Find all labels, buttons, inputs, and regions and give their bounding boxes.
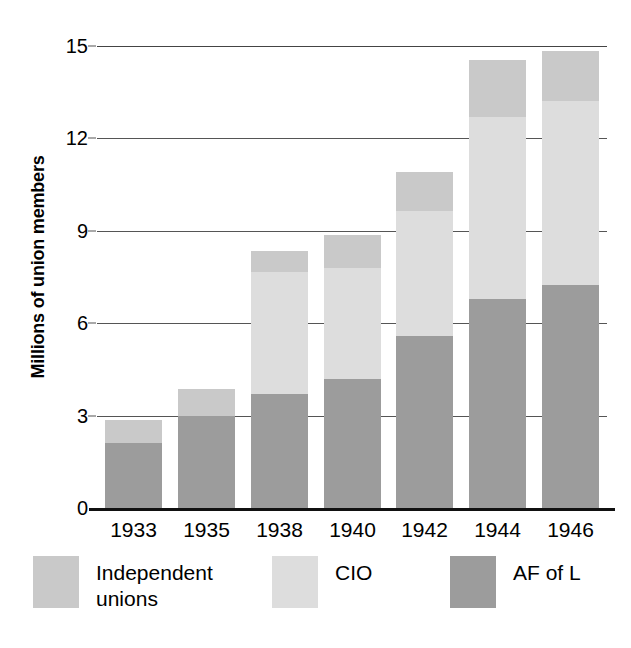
- bar-segment-cio-1938[interactable]: [251, 272, 308, 394]
- y-tick-label-12: 12: [66, 128, 88, 148]
- x-tick-label-1944: 1944: [474, 519, 521, 540]
- union-membership-stacked-bar-chart: Millions of union members 03691215 19331…: [0, 0, 631, 648]
- legend-label-0: Independent unions: [96, 556, 213, 612]
- legend-item-1[interactable]: CIO: [272, 556, 372, 608]
- y-tick-mark-9: [88, 230, 96, 231]
- legend-item-0[interactable]: Independent unions: [33, 556, 213, 612]
- legend-swatch-2: [450, 556, 496, 608]
- x-tick-label-1938: 1938: [256, 519, 303, 540]
- legend-swatch-0: [33, 556, 79, 608]
- bar-group-1933[interactable]: 1933: [105, 46, 162, 508]
- bar-segment-independent-1935[interactable]: [178, 389, 235, 415]
- bar-segment-independent-1946[interactable]: [542, 51, 599, 102]
- bar-segment-afl-1933[interactable]: [105, 443, 162, 508]
- y-tick-mark-12: [88, 138, 96, 139]
- bar-segment-independent-1940[interactable]: [324, 235, 381, 267]
- y-tick-label-9: 9: [77, 221, 88, 241]
- legend-label-1: CIO: [335, 556, 372, 586]
- bar-group-1935[interactable]: 1935: [178, 46, 235, 508]
- bar-segment-afl-1938[interactable]: [251, 394, 308, 508]
- bar-segment-afl-1946[interactable]: [542, 285, 599, 508]
- bar-group-1944[interactable]: 1944: [469, 46, 526, 508]
- bar-segment-cio-1946[interactable]: [542, 101, 599, 284]
- bar-segment-afl-1940[interactable]: [324, 379, 381, 508]
- y-tick-mark-15: [88, 46, 96, 47]
- bar-segment-cio-1944[interactable]: [469, 117, 526, 299]
- legend-item-2[interactable]: AF of L: [450, 556, 581, 608]
- bar-segment-afl-1942[interactable]: [396, 336, 453, 508]
- y-axis-title: Millions of union members: [28, 179, 49, 379]
- y-tick-mark-6: [88, 323, 96, 324]
- x-tick-label-1933: 1933: [110, 519, 157, 540]
- bar-segment-independent-1938[interactable]: [251, 251, 308, 273]
- bar-segment-independent-1944[interactable]: [469, 60, 526, 117]
- bar-segment-cio-1940[interactable]: [324, 268, 381, 379]
- bar-group-1946[interactable]: 1946: [542, 46, 599, 508]
- y-tick-label-15: 15: [66, 36, 88, 56]
- x-tick-label-1942: 1942: [401, 519, 448, 540]
- y-tick-label-3: 3: [77, 406, 88, 426]
- legend-label-2: AF of L: [513, 556, 581, 586]
- bar-group-1938[interactable]: 1938: [251, 46, 308, 508]
- legend-swatch-1: [272, 556, 318, 608]
- y-tick-label-6: 6: [77, 313, 88, 333]
- bar-group-1940[interactable]: 1940: [324, 46, 381, 508]
- x-tick-label-1935: 1935: [183, 519, 230, 540]
- x-tick-label-1940: 1940: [329, 519, 376, 540]
- y-tick-mark-3: [88, 415, 96, 416]
- bar-segment-afl-1935[interactable]: [178, 416, 235, 508]
- bar-segment-cio-1942[interactable]: [396, 211, 453, 336]
- bar-segment-independent-1942[interactable]: [396, 172, 453, 211]
- y-tick-label-0: 0: [77, 498, 88, 518]
- x-tick-label-1946: 1946: [547, 519, 594, 540]
- bar-segment-independent-1933[interactable]: [105, 420, 162, 443]
- x-axis-baseline: [89, 508, 615, 511]
- plot-area: 03691215 1933193519381940194219441946: [97, 46, 607, 508]
- chart-legend: Independent unionsCIOAF of L: [0, 556, 631, 648]
- bar-segment-afl-1944[interactable]: [469, 299, 526, 508]
- bar-group-1942[interactable]: 1942: [396, 46, 453, 508]
- bars-layer: 1933193519381940194219441946: [97, 46, 607, 508]
